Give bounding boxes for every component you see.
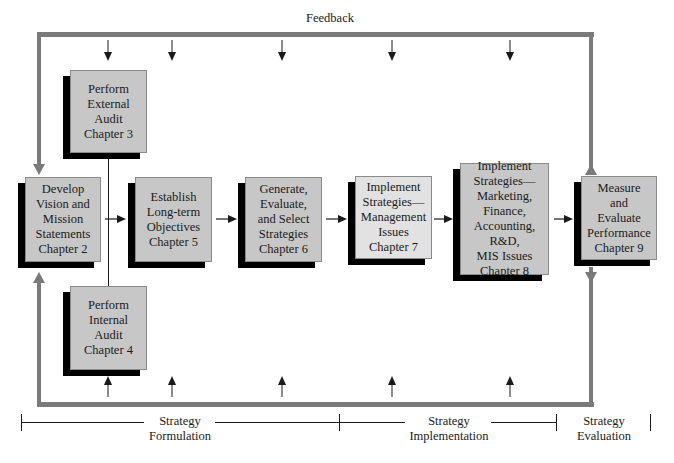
stage-strategy-implementation: Strategy Implementation bbox=[403, 414, 495, 444]
box-vision-mission: Develop Vision and Mission Statements Ch… bbox=[25, 177, 101, 262]
flow-arrow-icon bbox=[326, 214, 348, 224]
timeline-line bbox=[21, 422, 144, 423]
box-label: Perform External Audit Chapter 3 bbox=[84, 82, 133, 142]
feedback-loop-right-upper bbox=[589, 32, 593, 170]
box-long-term-objectives: Establish Long-term Objectives Chapter 5 bbox=[135, 177, 212, 262]
feedback-loop-left-lower bbox=[37, 278, 41, 407]
box-label: Implement Strategies— Marketing, Finance… bbox=[463, 159, 546, 279]
feedback-loop-bottom bbox=[37, 402, 594, 407]
down-arrow-icon bbox=[504, 40, 516, 62]
box-internal-audit: Perform Internal Audit Chapter 4 bbox=[70, 286, 147, 370]
down-arrow-icon bbox=[102, 40, 114, 62]
timeline-line bbox=[215, 422, 339, 423]
feedback-loop-left-upper bbox=[37, 32, 41, 170]
feedback-label: Feedback bbox=[300, 11, 360, 26]
up-arrow-icon bbox=[166, 376, 178, 398]
flow-arrow-icon bbox=[105, 214, 127, 224]
box-management-issues: Implement Strategies— Management Issues … bbox=[355, 176, 432, 259]
feedback-loop-right-lower bbox=[589, 267, 593, 407]
timeline-tick bbox=[650, 414, 651, 431]
box-label: Establish Long-term Objectives Chapter 5 bbox=[147, 190, 200, 250]
up-arrow-icon bbox=[504, 376, 516, 398]
down-arrow-icon bbox=[166, 40, 178, 62]
stage-strategy-evaluation: Strategy Evaluation bbox=[566, 414, 642, 444]
up-arrow-icon bbox=[276, 376, 288, 398]
flow-arrow-icon bbox=[216, 214, 238, 224]
up-arrow-icon bbox=[102, 376, 114, 398]
box-label: Generate, Evaluate, and Select Strategie… bbox=[258, 182, 310, 257]
box-label: Measure and Evaluate Performance Chapter… bbox=[587, 181, 651, 256]
stage-strategy-formulation: Strategy Formulation bbox=[140, 414, 220, 444]
timeline-line bbox=[491, 422, 556, 423]
loop-arrow-into-vision-icon bbox=[33, 164, 45, 176]
timeline-line bbox=[339, 422, 405, 423]
loop-arrow-from-bottom-icon bbox=[33, 272, 45, 284]
loop-arrow-up-from-measure-icon bbox=[585, 164, 597, 176]
timeline-tick bbox=[556, 414, 557, 431]
up-arrow-icon bbox=[386, 376, 398, 398]
feedback-loop-top bbox=[37, 32, 594, 37]
box-functional-issues: Implement Strategies— Marketing, Finance… bbox=[460, 163, 549, 275]
flow-arrow-icon bbox=[434, 214, 454, 224]
flow-arrow-icon bbox=[554, 214, 574, 224]
box-label: Implement Strategies— Management Issues … bbox=[361, 180, 426, 255]
box-label: Develop Vision and Mission Statements Ch… bbox=[36, 182, 91, 257]
box-measure-evaluate: Measure and Evaluate Performance Chapter… bbox=[581, 176, 657, 260]
box-external-audit: Perform External Audit Chapter 3 bbox=[70, 70, 147, 153]
box-generate-strategies: Generate, Evaluate, and Select Strategie… bbox=[245, 177, 322, 262]
down-arrow-icon bbox=[276, 40, 288, 62]
loop-arrow-down-from-measure-icon bbox=[585, 272, 597, 284]
down-arrow-icon bbox=[386, 40, 398, 62]
box-label: Perform Internal Audit Chapter 4 bbox=[84, 298, 133, 358]
